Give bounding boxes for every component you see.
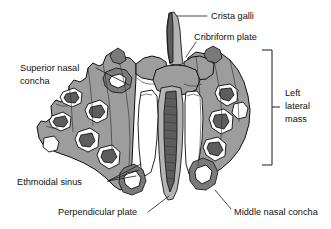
label-cribriform-plate: Cribriform plate — [194, 32, 257, 42]
anatomical-figure-ethmoid-bone: Crista galli Cribriform plate Superior n… — [0, 0, 331, 229]
label-perpendicular-plate: Perpendicular plate — [58, 207, 137, 217]
label-middle-nasal-concha: Middle nasal concha — [234, 207, 319, 217]
label-left-lateral-mass-line3: mass — [285, 114, 307, 124]
label-superior-nasal-concha-line1: Superior nasal — [20, 63, 79, 73]
label-superior-nasal-concha-line2: concha — [20, 76, 51, 86]
label-left-lateral-mass-line2: lateral — [285, 101, 310, 111]
ethmoid-bone-diagram: Crista galli Cribriform plate Superior n… — [0, 0, 331, 229]
label-ethmoidal-sinus: Ethmoidal sinus — [17, 177, 82, 187]
label-crista-galli: Crista galli — [211, 11, 254, 21]
label-left-lateral-mass-line1: Left — [285, 88, 301, 98]
